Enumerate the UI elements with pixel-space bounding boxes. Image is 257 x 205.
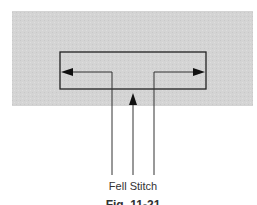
fell-stitch-label: Fell Stitch (109, 180, 157, 192)
fell-stitch-diagram (0, 0, 257, 205)
figure-caption: Fig. 11-21 (106, 198, 161, 205)
shaded-panel (12, 11, 253, 106)
